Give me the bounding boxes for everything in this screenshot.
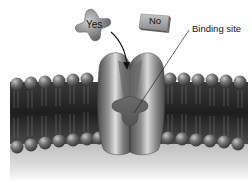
no-label: No (149, 16, 161, 26)
binding-site-label: Binding site (192, 24, 241, 34)
yes-label: Yes (86, 20, 102, 30)
membrane-receptor-diagram: Yes No Binding site (0, 0, 252, 183)
receptor-protein (98, 53, 165, 155)
